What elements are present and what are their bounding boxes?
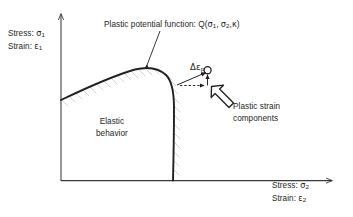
- x-axis-stress-line: Stress: σ2: [272, 180, 309, 193]
- title-leader-line: [147, 31, 161, 67]
- callout-block-arrow-icon: [211, 85, 233, 107]
- plastic-strain-components-line-2: components: [233, 113, 280, 125]
- plastic-strain-increment-label: Δεp: [190, 62, 204, 75]
- x-axis-label: Stress: σ2 Strain: ε2: [272, 180, 309, 205]
- y-axis-strain-line: Strain: ε1: [8, 41, 45, 54]
- flow-direction-node-icon: [204, 67, 211, 74]
- plastic-strain-components-label: Plastic strain components: [233, 101, 280, 124]
- elastic-behavior-line-2: behavior: [96, 128, 128, 140]
- y-axis-stress-line: Stress: σ1: [8, 28, 45, 41]
- plastic-strain-components-line-1: Plastic strain: [233, 101, 280, 113]
- y-axis-label: Stress: σ1 Strain: ε1: [8, 28, 45, 53]
- x-axis-strain-line: Strain: ε2: [272, 193, 309, 206]
- elastic-behavior-line-1: Elastic: [96, 116, 128, 128]
- plastic-potential-function-label: Plastic potential function: Q(σ1, σ2,κ): [104, 19, 240, 32]
- figure-canvas: Stress: σ1 Strain: ε1 Stress: σ2 Strain:…: [0, 0, 353, 217]
- elastic-behavior-label: Elastic behavior: [96, 116, 128, 140]
